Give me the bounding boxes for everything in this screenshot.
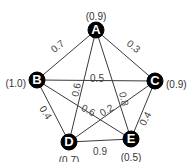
edge-weight-d-e: 0.9 (93, 146, 107, 157)
node-label: A (91, 22, 101, 37)
node-weight: (0.5) (121, 152, 142, 162)
node-c: C(0.9) (147, 73, 187, 90)
edge-weight-c-e: 0.4 (137, 109, 153, 127)
node-weight: (0.9) (86, 11, 107, 22)
node-e: E(0.5) (121, 131, 142, 162)
edge-weight-b-d: 0.4 (37, 104, 54, 122)
edge-weight-a-c: 0.3 (125, 38, 143, 55)
edge-weight-a-b: 0.7 (49, 37, 67, 54)
edge-weight-a-d: 0.6 (69, 81, 83, 97)
node-a: A(0.9) (86, 11, 107, 38)
edge-a-b (37, 30, 96, 80)
node-weight: (0.7) (59, 155, 80, 162)
edge-d-e (69, 139, 131, 142)
node-d: D(0.7) (59, 134, 80, 162)
node-b: B(1.0) (5, 72, 45, 89)
node-label: E (127, 131, 136, 146)
node-label: B (32, 72, 41, 87)
edge-a-c (96, 30, 155, 81)
edge-weight-c-d: 0.2 (98, 102, 116, 119)
node-label: D (64, 134, 73, 149)
node-weight: (1.0) (5, 78, 26, 89)
node-weight: (0.9) (166, 79, 187, 90)
edge-weight-b-c: 0.5 (90, 73, 104, 84)
graph-diagram: 0.70.30.60.80.50.40.60.20.40.9 A(0.9)B(1… (0, 0, 192, 162)
node-label: C (150, 73, 160, 88)
edge-weight-a-e: 0.8 (117, 91, 131, 107)
nodes-layer: A(0.9)B(1.0)C(0.9)D(0.7)E(0.5) (5, 11, 186, 162)
